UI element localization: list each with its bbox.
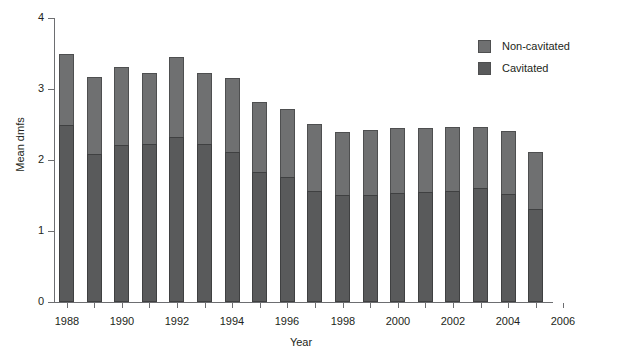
legend-swatch-non-cavitated bbox=[478, 40, 491, 53]
bar-2005 bbox=[528, 152, 543, 302]
x-tick-1989 bbox=[94, 303, 95, 308]
bar-segment-cavitated-2004 bbox=[501, 194, 516, 302]
bar-segment-non-cavitated-1999 bbox=[363, 130, 378, 195]
plot-area bbox=[55, 18, 552, 302]
x-tick-label-2000: 2000 bbox=[378, 316, 418, 327]
bar-1991 bbox=[142, 73, 157, 302]
bar-segment-non-cavitated-1998 bbox=[335, 132, 350, 196]
bar-segment-non-cavitated-1993 bbox=[197, 73, 212, 144]
bar-segment-cavitated-1999 bbox=[363, 195, 378, 302]
bar-1996 bbox=[280, 109, 295, 302]
bar-segment-non-cavitated-1992 bbox=[169, 57, 184, 137]
bar-segment-cavitated-1996 bbox=[280, 177, 295, 302]
x-tick-1993 bbox=[205, 303, 206, 308]
bar-1998 bbox=[335, 132, 350, 302]
bar-1990 bbox=[114, 67, 129, 302]
x-tick-label-1994: 1994 bbox=[212, 316, 252, 327]
bar-segment-non-cavitated-2002 bbox=[445, 127, 460, 191]
x-tick-2003 bbox=[481, 303, 482, 308]
x-tick-1988 bbox=[67, 303, 68, 308]
x-tick-1994 bbox=[232, 303, 233, 308]
x-tick-label-1990: 1990 bbox=[102, 316, 142, 327]
bar-segment-non-cavitated-1997 bbox=[307, 124, 322, 191]
x-axis-line bbox=[54, 302, 553, 303]
bar-segment-cavitated-2003 bbox=[473, 188, 488, 302]
x-tick-label-1988: 1988 bbox=[47, 316, 87, 327]
bar-segment-cavitated-1995 bbox=[252, 172, 267, 302]
bar-segment-non-cavitated-2000 bbox=[390, 128, 405, 193]
y-tick-2 bbox=[48, 160, 54, 161]
bar-1997 bbox=[307, 124, 322, 302]
bar-1989 bbox=[87, 77, 102, 302]
bar-2000 bbox=[390, 128, 405, 302]
y-tick-0 bbox=[48, 302, 54, 303]
x-tick-2004 bbox=[508, 303, 509, 308]
y-tick-label-4: 4 bbox=[20, 12, 44, 23]
x-tick-2002 bbox=[453, 303, 454, 308]
bar-segment-cavitated-1991 bbox=[142, 144, 157, 302]
bar-segment-non-cavitated-1988 bbox=[59, 54, 74, 126]
x-tick-1999 bbox=[370, 303, 371, 308]
bar-segment-cavitated-2005 bbox=[528, 209, 543, 302]
y-tick-1 bbox=[48, 231, 54, 232]
legend-label-cavitated: Cavitated bbox=[502, 61, 548, 75]
bar-segment-cavitated-1990 bbox=[114, 145, 129, 302]
bar-segment-non-cavitated-1996 bbox=[280, 109, 295, 177]
x-tick-1997 bbox=[315, 303, 316, 308]
bar-segment-cavitated-2002 bbox=[445, 191, 460, 302]
bar-segment-cavitated-1988 bbox=[59, 125, 74, 302]
bar-segment-cavitated-1997 bbox=[307, 191, 322, 302]
x-tick-1995 bbox=[260, 303, 261, 308]
x-tick-label-1996: 1996 bbox=[267, 316, 307, 327]
bar-1999 bbox=[363, 130, 378, 302]
x-axis-title: Year bbox=[261, 337, 341, 348]
x-tick-1996 bbox=[287, 303, 288, 308]
bar-segment-non-cavitated-2005 bbox=[528, 152, 543, 209]
bar-segment-non-cavitated-1995 bbox=[252, 102, 267, 172]
y-tick-label-0: 0 bbox=[20, 296, 44, 307]
x-tick-2006 bbox=[563, 303, 564, 308]
bar-1988 bbox=[59, 54, 74, 303]
bar-segment-cavitated-1989 bbox=[87, 154, 102, 302]
bar-segment-cavitated-1993 bbox=[197, 144, 212, 302]
bar-segment-cavitated-1998 bbox=[335, 195, 350, 302]
legend-swatch-cavitated bbox=[478, 62, 491, 75]
x-tick-2001 bbox=[425, 303, 426, 308]
bar-1994 bbox=[225, 78, 240, 302]
x-tick-label-2004: 2004 bbox=[488, 316, 528, 327]
x-tick-1990 bbox=[122, 303, 123, 308]
x-tick-2000 bbox=[398, 303, 399, 308]
x-tick-label-2006: 2006 bbox=[543, 316, 583, 327]
bar-segment-non-cavitated-1989 bbox=[87, 77, 102, 154]
x-tick-1998 bbox=[343, 303, 344, 308]
y-tick-label-1: 1 bbox=[20, 225, 44, 236]
legend-label-non-cavitated: Non-cavitated bbox=[502, 39, 570, 53]
bar-1992 bbox=[169, 57, 184, 302]
bar-2002 bbox=[445, 127, 460, 302]
bar-segment-cavitated-2001 bbox=[418, 192, 433, 302]
x-tick-label-1992: 1992 bbox=[157, 316, 197, 327]
bar-2003 bbox=[473, 127, 488, 302]
bar-segment-non-cavitated-1990 bbox=[114, 67, 129, 145]
bar-segment-cavitated-1994 bbox=[225, 152, 240, 302]
y-axis-title: Mean dmfs bbox=[15, 75, 26, 215]
bar-segment-non-cavitated-1991 bbox=[142, 73, 157, 144]
bar-segment-non-cavitated-1994 bbox=[225, 78, 240, 152]
bar-segment-non-cavitated-2004 bbox=[501, 131, 516, 194]
bar-segment-cavitated-2000 bbox=[390, 193, 405, 302]
y-tick-3 bbox=[48, 89, 54, 90]
x-tick-1991 bbox=[149, 303, 150, 308]
chart-figure: 01234 1988199019921994199619982000200220… bbox=[0, 0, 622, 356]
bar-1995 bbox=[252, 102, 267, 302]
y-tick-4 bbox=[48, 18, 54, 19]
x-tick-1992 bbox=[177, 303, 178, 308]
x-tick-label-2002: 2002 bbox=[433, 316, 473, 327]
bar-segment-non-cavitated-2003 bbox=[473, 127, 488, 188]
bar-2004 bbox=[501, 131, 516, 302]
bar-segment-non-cavitated-2001 bbox=[418, 128, 433, 192]
x-tick-label-1998: 1998 bbox=[323, 316, 363, 327]
bar-1993 bbox=[197, 73, 212, 302]
bar-segment-cavitated-1992 bbox=[169, 137, 184, 302]
x-tick-2005 bbox=[536, 303, 537, 308]
bar-2001 bbox=[418, 128, 433, 302]
